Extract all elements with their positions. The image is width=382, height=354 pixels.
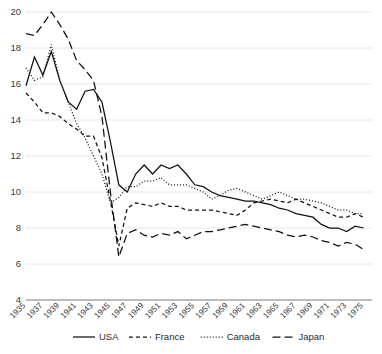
x-axis-tick-label: 1959 — [211, 301, 231, 321]
x-axis-tick-label: 1939 — [42, 301, 62, 321]
x-axis-tick-label: 1957 — [194, 301, 214, 321]
x-axis-tick-label: 1967 — [278, 301, 298, 321]
legend-label-japan: Japan — [299, 331, 325, 342]
y-axis-tick-label: 6 — [16, 258, 21, 269]
y-axis-tick-label: 10 — [10, 186, 21, 197]
y-axis-tick-label: 12 — [10, 150, 21, 161]
legend-label-usa: USA — [99, 331, 119, 342]
chart-canvas: 201816141210864 193519371939194119431945… — [0, 0, 382, 354]
gridlines — [26, 12, 372, 264]
y-axis-tick-label: 8 — [16, 222, 21, 233]
legend-label-france: France — [155, 331, 185, 342]
x-axis-tick-label: 1941 — [59, 301, 79, 321]
series-line-usa — [26, 52, 364, 232]
x-axis-tick-label: 1963 — [244, 301, 264, 321]
y-axis-tick-label: 16 — [10, 78, 21, 89]
legend-label-canada: Canada — [227, 331, 261, 342]
x-axis-tick-label: 1949 — [126, 301, 146, 321]
x-axis-tick-label: 1945 — [93, 301, 113, 321]
x-axis-tick-label: 1947 — [109, 301, 129, 321]
x-axis-tick-label: 1965 — [261, 301, 281, 321]
x-axis-tick-label: 1973 — [329, 301, 349, 321]
y-axis-tick-label: 14 — [10, 114, 21, 125]
y-axis-tick-label: 20 — [10, 6, 21, 17]
x-axis-tick-label: 1955 — [177, 301, 197, 321]
x-axis-tick-label: 1951 — [143, 301, 163, 321]
x-axis-tick-label: 1969 — [295, 301, 315, 321]
x-axis-tick-label: 1975 — [346, 301, 366, 321]
x-axis-tick-labels: 1935193719391941194319451947194919511953… — [8, 301, 365, 321]
y-axis-tick-label: 18 — [10, 42, 21, 53]
data-series-group — [26, 12, 364, 257]
series-line-france — [26, 93, 364, 246]
x-axis-tick-label: 1943 — [76, 301, 96, 321]
x-axis-tick-label: 1935 — [8, 301, 28, 321]
x-axis-tick-label: 1953 — [160, 301, 180, 321]
x-axis-tick-label: 1971 — [312, 301, 332, 321]
x-axis-tick-label: 1961 — [228, 301, 248, 321]
legend: USAFranceCanadaJapan — [73, 331, 324, 342]
x-axis-tick-label: 1937 — [25, 301, 45, 321]
line-chart: 201816141210864 193519371939194119431945… — [0, 0, 382, 354]
y-axis-tick-labels: 201816141210864 — [10, 6, 21, 305]
series-line-japan — [26, 12, 364, 257]
